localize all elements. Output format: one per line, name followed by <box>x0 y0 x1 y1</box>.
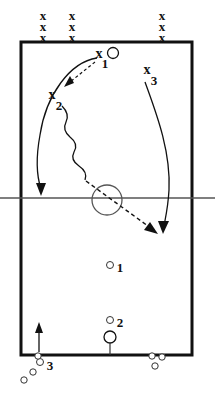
player-x3-glyph: x <box>144 62 151 77</box>
target-o3-index: 3 <box>47 358 54 373</box>
ball-icon <box>149 353 155 359</box>
ball-icon <box>108 48 119 59</box>
ball-cart-circle <box>104 331 116 343</box>
arrow-head <box>35 322 43 333</box>
target-marker-o1[interactable]: 1 <box>107 260 124 275</box>
player-x3-index: 3 <box>151 73 158 88</box>
player-x1[interactable]: x 1 <box>96 46 109 71</box>
player-x2[interactable]: x 2 <box>49 87 63 113</box>
player-x2-index: 2 <box>56 98 63 113</box>
target-o1-circle <box>107 262 114 269</box>
ball-icon <box>152 363 158 369</box>
arrow-head <box>158 221 169 234</box>
ball-icon <box>159 354 165 360</box>
target-o2-circle <box>107 317 114 324</box>
player-x2-glyph: x <box>49 87 56 102</box>
path-x3-run-down <box>145 82 169 234</box>
ball-cluster-left <box>21 353 41 383</box>
player-x1-index: 1 <box>102 56 109 71</box>
target-marker-o2[interactable]: 2 <box>107 315 124 330</box>
ball-icon <box>30 369 36 375</box>
arrow-head <box>144 222 158 234</box>
arrow-head <box>36 183 46 196</box>
volleyball-drill-diagram: x x x x x x x x x <box>0 0 215 398</box>
player-queue-middle: x x x <box>69 8 76 45</box>
path-x1-to-x2-pass <box>64 62 95 87</box>
center-circle <box>92 185 122 215</box>
diagram-canvas: x x x x x x x x x <box>0 0 215 398</box>
path-o3-enter-court <box>35 322 43 352</box>
ball-icon <box>21 377 27 383</box>
player-queue-left: x x x <box>40 8 47 45</box>
target-marker-o3[interactable]: 3 <box>37 358 54 373</box>
player-queue-right: x x x <box>159 8 166 45</box>
ball-cart-icon <box>104 331 116 355</box>
target-o2-index: 2 <box>117 315 124 330</box>
target-o1-index: 1 <box>117 260 124 275</box>
ball-icon <box>35 353 41 359</box>
path-x1-run-left-deep <box>36 58 97 196</box>
